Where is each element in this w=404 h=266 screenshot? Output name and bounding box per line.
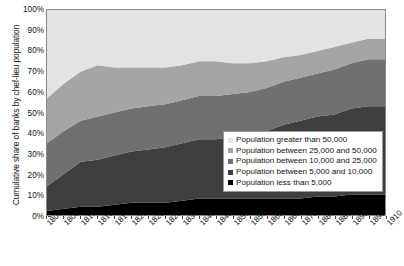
legend-item-label: Population between 10,000 and 25,000 [236,157,377,165]
legend-swatch-icon [228,148,233,153]
y-axis-tick-40: 40% [10,129,44,138]
legend-item-label: Population between 25,000 and 50,000 [236,147,377,155]
legend-item: Population less than 5,000 [228,177,377,188]
legend-item-label: Population between 5,000 and 10,000 [236,168,372,176]
y-axis-tick-70: 70% [10,67,44,76]
y-axis-tick-10: 10% [10,191,44,200]
legend-swatch-icon [228,170,233,175]
y-axis-tick-100: 100% [10,5,44,14]
legend-item: Population between 5,000 and 10,000 [228,167,377,178]
legend-swatch-icon [228,138,233,143]
y-axis-tick-0: 0% [10,212,44,221]
legend-swatch-icon [228,180,233,185]
legend-item-label: Population greater than 50,000 [236,136,347,144]
chart-legend: Population greater than 50,000Population… [223,131,383,192]
legend-item: Population between 10,000 and 25,000 [228,156,377,167]
y-axis-tick-30: 30% [10,149,44,158]
y-axis-tick-60: 60% [10,87,44,96]
x-axis-tick-1910: 1910 [385,208,404,227]
legend-item: Population between 25,000 and 50,000 [228,146,377,157]
y-axis-tick-labels: 0%10%20%30%40%50%60%70%80%90%100% [4,0,44,266]
x-axis-tick-labels: 1801180518101813181718201825182918341840… [46,216,386,266]
y-axis-tick-50: 50% [10,108,44,117]
y-axis-tick-20: 20% [10,170,44,179]
legend-item-label: Population less than 5,000 [236,179,331,187]
legend-swatch-icon [228,159,233,164]
legend-item: Population greater than 50,000 [228,135,377,146]
y-axis-tick-90: 90% [10,25,44,34]
y-axis-tick-80: 80% [10,46,44,55]
